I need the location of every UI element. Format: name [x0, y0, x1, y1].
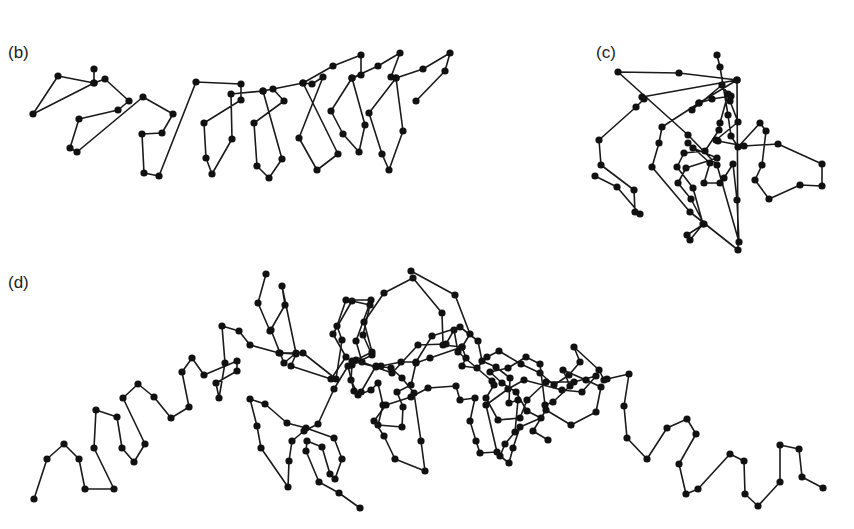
- chain-monomer: [119, 394, 126, 401]
- chain-monomer: [632, 103, 639, 110]
- chain-monomer: [452, 382, 459, 389]
- chain-monomer: [419, 65, 426, 72]
- chain-monomer: [326, 470, 333, 477]
- chain-monomer: [81, 485, 88, 492]
- chain-monomer: [597, 383, 604, 390]
- chain-monomer: [674, 179, 681, 186]
- chain-monomer: [727, 132, 734, 139]
- chain-monomer: [287, 362, 294, 369]
- chain-monomer: [267, 326, 274, 333]
- chain-monomer: [281, 301, 288, 308]
- chain-monomer: [424, 384, 431, 391]
- chain-monomer: [90, 65, 97, 72]
- chain-monomer: [398, 423, 405, 430]
- chain-monomer: [683, 415, 690, 422]
- chain-monomer: [715, 126, 722, 133]
- chain-monomer: [713, 51, 720, 58]
- chain-monomer: [695, 99, 702, 106]
- chain-monomer: [139, 93, 146, 100]
- chain-monomer: [776, 478, 783, 485]
- chain-monomer: [140, 169, 147, 176]
- chain-monomer: [636, 210, 643, 217]
- chain-monomer: [648, 163, 655, 170]
- chain-monomer: [765, 195, 772, 202]
- chain-monomer: [456, 323, 463, 330]
- chain-monomer: [250, 119, 257, 126]
- chain-monomer: [701, 147, 708, 154]
- chain-monomer: [741, 490, 748, 497]
- chain-monomer: [592, 408, 599, 415]
- chain-monomer: [516, 423, 523, 430]
- chain-monomer: [348, 297, 355, 304]
- chain-monomer: [512, 388, 519, 395]
- chain-monomer: [713, 161, 720, 168]
- chain-monomer: [43, 455, 50, 462]
- chain-monomer: [359, 331, 366, 338]
- figure-canvas: (b) (c) (d): [0, 0, 854, 529]
- chain-monomer: [819, 484, 826, 491]
- chain-monomer: [185, 403, 192, 410]
- chain-monomer: [490, 381, 497, 388]
- chain-monomer: [233, 357, 240, 364]
- chain-monomer: [218, 322, 225, 329]
- chain-monomer: [412, 358, 419, 365]
- chain-diagrams: [0, 0, 854, 529]
- chain-monomer: [758, 161, 765, 168]
- chain-monomer: [350, 387, 357, 394]
- chain-monomer: [414, 341, 421, 348]
- chain-monomer: [620, 402, 627, 409]
- chain-monomer: [335, 489, 342, 496]
- chain-monomer: [380, 432, 387, 439]
- chain-monomer: [474, 337, 481, 344]
- chain-monomer: [397, 358, 404, 365]
- chain-monomer: [699, 220, 706, 227]
- chain-monomer: [724, 90, 731, 97]
- chain-monomer: [378, 150, 385, 157]
- chain-monomer: [158, 129, 165, 136]
- chain-monomer: [155, 172, 162, 179]
- chain-monomer: [380, 289, 387, 296]
- chain-monomer: [582, 376, 589, 383]
- chain-monomer: [655, 139, 662, 146]
- chain-monomer: [675, 69, 682, 76]
- chain-monomer: [253, 162, 260, 169]
- chain-monomer: [733, 196, 740, 203]
- chain-monomer: [451, 291, 458, 298]
- chain-monomer: [536, 360, 543, 367]
- chain-monomer: [342, 353, 349, 360]
- chain-monomer: [361, 121, 368, 128]
- chain-monomer: [566, 382, 573, 389]
- chain-monomer: [733, 76, 740, 83]
- chain-monomer: [735, 238, 742, 245]
- chain-monomer: [227, 90, 234, 97]
- chain-monomer: [113, 413, 120, 420]
- chain-monomer: [370, 417, 377, 424]
- chain-monomer: [303, 437, 310, 444]
- chain-monomer: [338, 336, 345, 343]
- chain-monomer: [718, 81, 725, 88]
- chain-monomer: [492, 363, 499, 370]
- chain-monomer: [92, 406, 99, 413]
- chain-monomer: [613, 183, 620, 190]
- chain-monomer: [614, 68, 621, 75]
- chain-monomer: [313, 166, 320, 173]
- panel-b-chain: [29, 49, 453, 181]
- chain-monomer: [595, 136, 602, 143]
- chain-monomer: [706, 159, 713, 166]
- chain-monomer: [339, 130, 346, 137]
- chain-monomer: [482, 394, 489, 401]
- chain-monomer: [200, 119, 207, 126]
- chain-monomer: [329, 330, 336, 337]
- chain-monomer: [689, 184, 696, 191]
- chain-monomer: [253, 422, 260, 429]
- chain-monomer: [246, 341, 253, 348]
- chain-monomer: [357, 51, 364, 58]
- chain-monomer: [284, 483, 291, 490]
- chain-monomer: [387, 364, 394, 371]
- chain-monomer: [713, 154, 720, 161]
- chain-monomer: [542, 378, 549, 385]
- chain-monomer: [54, 72, 61, 79]
- chain-monomer: [716, 119, 723, 126]
- chain-monomer: [724, 111, 731, 118]
- chain-monomer: [352, 337, 359, 344]
